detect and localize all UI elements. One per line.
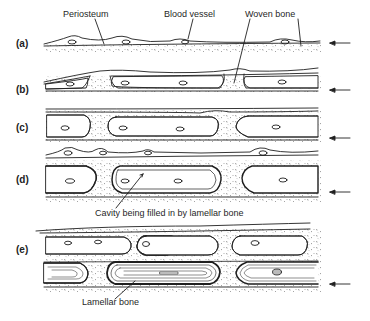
stage-d-drawing [46, 147, 321, 208]
stage-e-drawing [36, 223, 321, 299]
diagram-drawing [0, 0, 370, 321]
stage-c-drawing [46, 108, 321, 142]
stage-b-drawing [44, 19, 321, 92]
arrow-left-icon-e [330, 282, 350, 286]
stage-a-drawing [44, 19, 321, 52]
bone-growth-diagram: Periosteum Blood vessel Woven bone Cavit… [0, 0, 370, 321]
arrow-left-icon-c [330, 136, 350, 140]
arrow-left-icon-a [330, 41, 350, 45]
arrow-left-icon-d [330, 190, 350, 194]
arrow-left-icon-b [330, 88, 350, 92]
